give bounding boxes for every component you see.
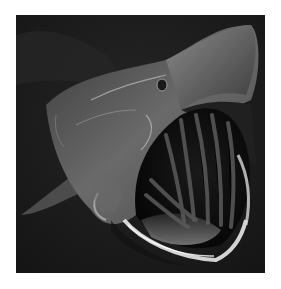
eye-icon bbox=[157, 79, 167, 91]
shark-illustration bbox=[16, 15, 265, 273]
shark-photo: Basking shark with mouth wide open under… bbox=[16, 15, 265, 273]
